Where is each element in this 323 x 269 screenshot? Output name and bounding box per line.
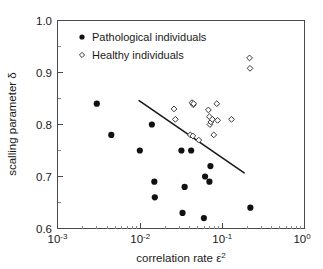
data-point	[182, 184, 188, 190]
data-point	[202, 173, 208, 179]
legend-label-pathological: Pathological individuals	[92, 31, 207, 43]
data-point	[178, 147, 184, 153]
data-point	[215, 117, 221, 123]
data-point	[137, 147, 143, 153]
data-point	[108, 132, 114, 138]
y-axis-ticks	[58, 21, 63, 229]
y-tick-label-4: 0.7	[36, 171, 52, 183]
data-point	[172, 116, 178, 122]
legend: Pathological individuals Healthy individ…	[79, 31, 206, 61]
y-axis-title: scalling parameter δ	[6, 72, 18, 176]
legend-marker-healthy	[79, 52, 84, 57]
data-point	[94, 101, 100, 107]
data-point	[229, 116, 235, 122]
data-point	[247, 55, 253, 61]
plot-canvas: 1.0 0.9 0.8 0.7 0.6 10-3 10-2 10-1 100 c…	[0, 0, 323, 269]
x-axis-ticks	[58, 223, 305, 229]
data-point	[247, 205, 253, 211]
scatter-plot-figure: 1.0 0.9 0.8 0.7 0.6 10-3 10-2 10-1 100 c…	[0, 0, 323, 269]
y-tick-labels: 1.0 0.9 0.8 0.7 0.6	[36, 15, 52, 235]
y-tick-label-3: 0.8	[36, 119, 52, 131]
data-point	[201, 215, 207, 221]
data-point	[214, 101, 220, 107]
x-tick-label-3: 10-1	[212, 232, 232, 245]
x-tick-labels: 10-3 10-2 10-1 100	[48, 232, 312, 245]
series-healthy-individuals	[171, 55, 253, 143]
x-tick-label-2: 10-2	[130, 232, 150, 245]
data-point	[171, 106, 177, 112]
data-point	[188, 147, 194, 153]
data-point	[211, 132, 217, 138]
data-point	[207, 163, 213, 169]
y-tick-label-2: 0.9	[36, 67, 52, 79]
legend-label-healthy: Healthy individuals	[92, 49, 184, 61]
data-point	[151, 179, 157, 185]
data-point	[205, 107, 211, 113]
data-point	[149, 121, 155, 127]
data-point	[247, 65, 253, 71]
legend-marker-pathological	[79, 34, 84, 39]
data-point	[179, 210, 185, 216]
x-tick-label-4: 100	[293, 232, 311, 245]
x-axis-title: correlation rate ε2	[136, 251, 226, 264]
data-point	[206, 179, 212, 185]
data-point	[152, 194, 158, 200]
y-tick-label-1: 1.0	[36, 15, 52, 27]
x-tick-label-1: 10-3	[48, 232, 68, 245]
